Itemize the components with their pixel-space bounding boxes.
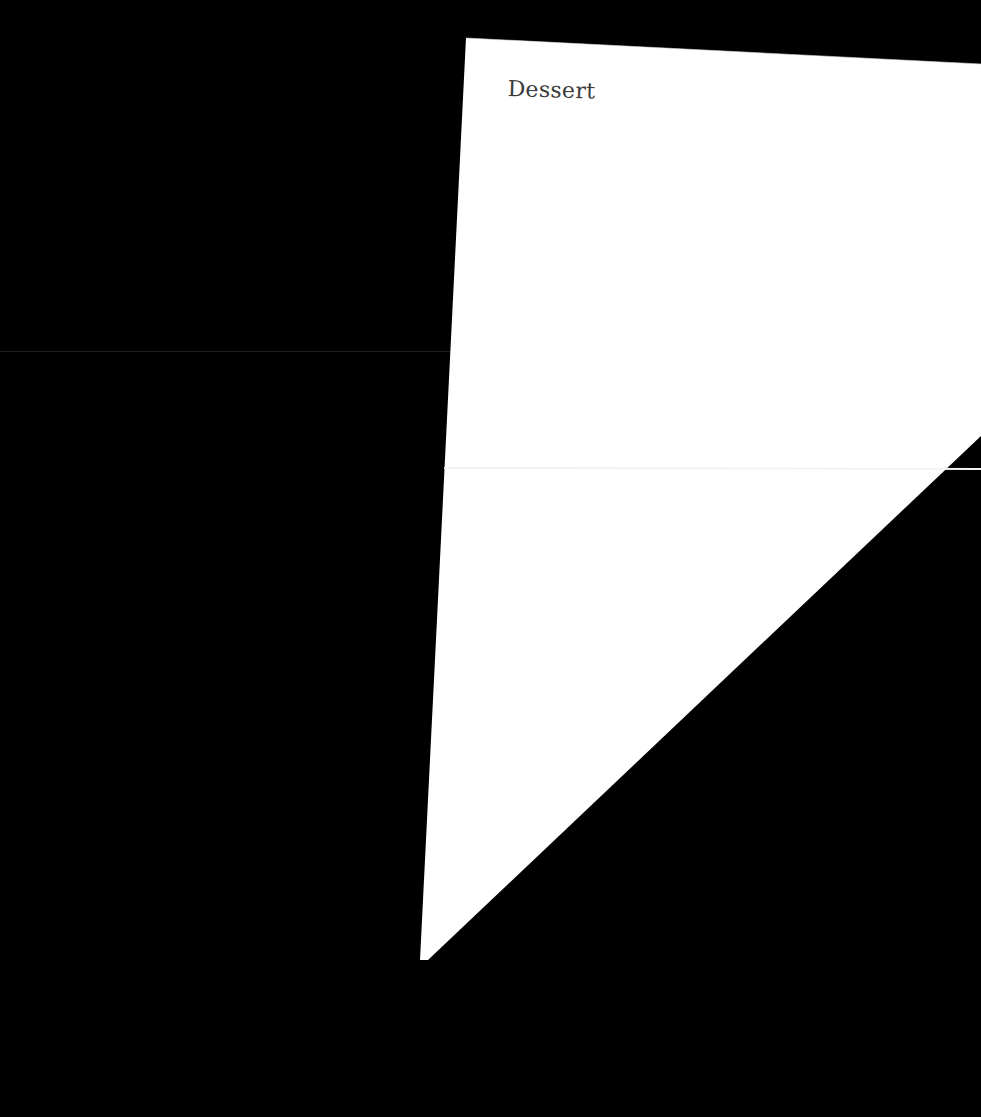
paper-sheet xyxy=(0,0,981,1117)
page-title: Dessert xyxy=(507,76,595,103)
scanned-page-scene: Dessert xyxy=(0,0,981,1117)
paper-fragment xyxy=(420,38,981,960)
paper-fold-line xyxy=(444,468,981,469)
